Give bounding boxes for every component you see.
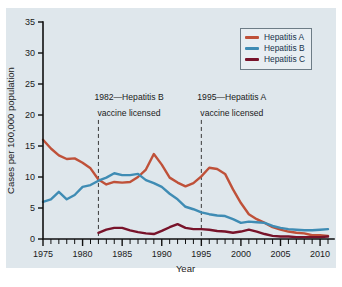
legend-swatch-icon	[245, 47, 259, 50]
legend-item-hepatitis-b[interactable]: Hepatitis B	[245, 43, 305, 54]
y-tick-label-15: 15	[25, 141, 35, 151]
y-tick-label-35: 35	[25, 17, 35, 27]
legend-item-hepatitis-c[interactable]: Hepatitis C	[245, 54, 305, 65]
x-tick-label-1995: 1995	[191, 249, 211, 259]
legend-swatch-icon	[245, 36, 259, 39]
y-tick-label-0: 0	[30, 234, 35, 244]
x-tick-label-1980: 1980	[73, 249, 93, 259]
chart-legend: Hepatitis AHepatitis BHepatitis C	[240, 28, 312, 70]
legend-swatch-icon	[245, 58, 259, 61]
legend-label: Hepatitis B	[264, 43, 305, 54]
y-tick-label-5: 5	[30, 203, 35, 213]
annotation-label-1982-line2: vaccine licensed	[97, 108, 160, 118]
annotation-label-1995-line2: vaccine licensed	[200, 108, 263, 118]
x-tick-label-2010: 2010	[310, 249, 330, 259]
series-line-hepatitis-b	[43, 173, 328, 230]
figure-container: 1982—Hepatitis Bvaccine licensed1995—Hep…	[0, 0, 342, 287]
legend-item-hepatitis-a[interactable]: Hepatitis A	[245, 32, 305, 43]
y-tick-label-10: 10	[25, 172, 35, 182]
y-tick-label-20: 20	[25, 110, 35, 120]
y-tick-label-30: 30	[25, 48, 35, 58]
x-tick-label-2005: 2005	[270, 249, 290, 259]
legend-label: Hepatitis A	[264, 32, 304, 43]
annotation-label-1982-line1: 1982—Hepatitis B	[94, 92, 164, 102]
x-tick-label-1990: 1990	[152, 249, 172, 259]
y-axis-title: Cases per 100,000 population	[5, 67, 16, 194]
x-tick-label-2000: 2000	[231, 249, 251, 259]
series-line-hepatitis-a	[43, 140, 328, 236]
legend-label: Hepatitis C	[264, 54, 305, 65]
x-tick-label-1975: 1975	[33, 249, 53, 259]
x-tick-label-1985: 1985	[112, 249, 132, 259]
y-tick-label-25: 25	[25, 79, 35, 89]
annotation-label-1995-line1: 1995—Hepatitis A	[197, 92, 266, 102]
x-axis-title: Year	[176, 263, 195, 274]
